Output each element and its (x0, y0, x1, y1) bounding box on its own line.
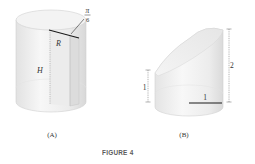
angle-denominator: 6 (86, 16, 90, 23)
panel-a-label: (A) (47, 131, 57, 139)
panel-a-cylinder (16, 10, 86, 112)
left-height-label: 1 (143, 83, 147, 92)
figure-caption: FIGURE 4 (102, 148, 133, 157)
figure-canvas: π 6 R H (A) 1 2 1 (B) (0, 0, 255, 164)
angle-numerator: π (86, 6, 90, 15)
panel-b-cylinder (146, 28, 232, 116)
panel-b-label: (B) (179, 131, 189, 139)
radius-label-b: 1 (203, 93, 207, 102)
right-height-label: 2 (230, 61, 234, 70)
radius-label-a: R (55, 39, 61, 48)
